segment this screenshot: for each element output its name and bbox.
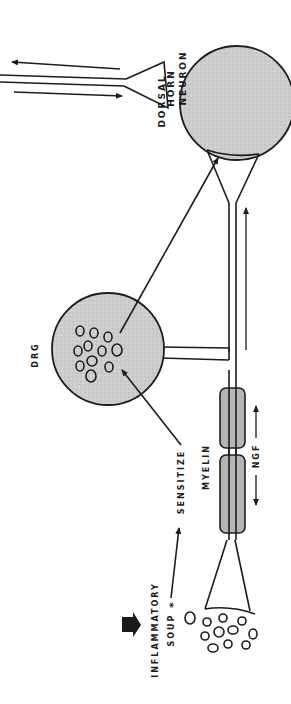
inflammatory-label: INFLAMMATORY (151, 582, 160, 678)
peripheral-cup (205, 608, 255, 614)
terminal-right-edge (236, 154, 259, 203)
ngf-double-arrow: NGF (252, 406, 261, 505)
peripheral-right-edge (235, 540, 250, 611)
ascending-tract (0, 62, 126, 96)
dorsal-horn-neuron-cell (180, 46, 291, 160)
asterisk-marker: * (167, 600, 180, 608)
peripheral-left-edge (205, 540, 227, 609)
drg-cell (52, 293, 164, 405)
drg-stem-upper (160, 347, 229, 352)
drg-stem-lower (160, 358, 229, 360)
ngf-label: NGF (252, 444, 261, 469)
soup-to-sensitize-arrow-icon (171, 528, 179, 598)
soup-label: SOUP (167, 614, 176, 647)
incoming-arrow-icon (14, 92, 122, 96)
tract-line-upper (0, 75, 126, 79)
peripheral-terminal (205, 540, 255, 614)
horn-label: HORN (166, 69, 176, 107)
diagram-canvas: DORSAL HORN NEURON DRG (0, 0, 291, 704)
tract-line-lower (0, 82, 124, 86)
myelin-sheath (220, 388, 245, 533)
myelin-label: MYELIN (202, 444, 211, 490)
sensitize-label: SENSITIZE (177, 450, 186, 514)
inflammatory-soup-particles (185, 612, 257, 652)
outgoing-arrow-icon (12, 62, 120, 69)
drg-label: DRG (31, 342, 40, 367)
drg-to-neuron-arrow-icon (120, 158, 218, 333)
drg-stem (160, 347, 229, 360)
myelin-segment-1 (220, 388, 245, 448)
myelin-segment-2 (220, 455, 245, 533)
block-arrow-icon (122, 612, 141, 637)
neuron-label: NEURON (178, 50, 188, 105)
